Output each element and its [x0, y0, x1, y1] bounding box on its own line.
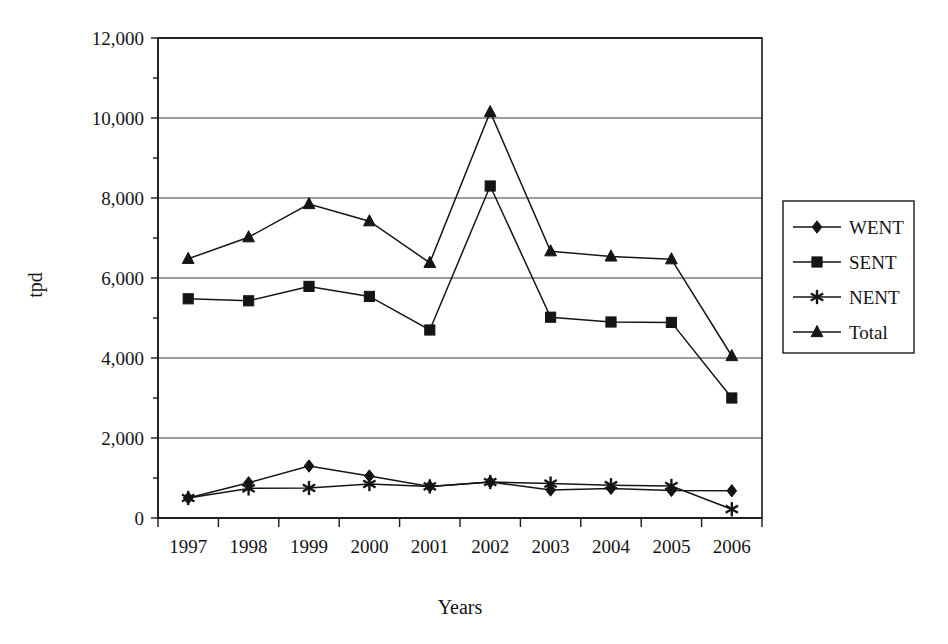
data-point-square — [812, 257, 822, 267]
x-tick-label: 2004 — [592, 536, 631, 557]
data-point-square — [425, 325, 435, 335]
series-line-total — [188, 112, 732, 356]
series-line-sent — [188, 186, 732, 398]
x-tick-label: 1999 — [290, 536, 328, 557]
x-tick-label: 2002 — [471, 536, 509, 557]
data-point-square — [606, 317, 616, 327]
x-tick-label: 1997 — [169, 536, 207, 557]
gridlines-group — [158, 38, 762, 518]
x-tick-label: 1998 — [230, 536, 268, 557]
y-tick-label: 10,000 — [92, 108, 144, 129]
series-nent — [182, 475, 738, 516]
data-series-group — [182, 105, 738, 516]
y-tick-label: 12,000 — [92, 28, 144, 49]
series-sent — [183, 181, 737, 403]
legend-item-label: SENT — [849, 252, 897, 273]
y-tick-label: 6,000 — [101, 268, 144, 289]
legend-item-label: WENT — [849, 217, 904, 238]
series-line-nent — [188, 482, 732, 509]
data-point-square — [666, 317, 676, 327]
data-point-triangle — [726, 349, 738, 360]
data-point-square — [244, 296, 254, 306]
legend-item-label: Total — [849, 322, 888, 343]
y-tick-label: 8,000 — [101, 188, 144, 209]
data-point-star — [726, 502, 738, 516]
x-tick-marks-group — [158, 518, 762, 527]
data-point-diamond — [304, 460, 314, 472]
data-point-square — [546, 312, 556, 322]
y-tick-labels-group: 02,0004,0006,0008,00010,00012,000 — [92, 28, 144, 529]
data-point-triangle — [484, 105, 496, 116]
data-point-square — [485, 181, 495, 191]
series-went — [183, 460, 736, 504]
x-tick-label: 2000 — [350, 536, 388, 557]
y-tick-label: 4,000 — [101, 348, 144, 369]
data-point-square — [364, 291, 374, 301]
y-axis-title: tpd — [24, 272, 47, 298]
x-tick-label: 2001 — [411, 536, 449, 557]
legend-item-label: NENT — [849, 287, 900, 308]
x-tick-label: 2003 — [532, 536, 570, 557]
x-axis-title: Years — [438, 596, 483, 618]
data-point-triangle — [243, 231, 255, 242]
y-tick-label: 0 — [135, 508, 145, 529]
data-point-square — [727, 393, 737, 403]
data-point-triangle — [545, 245, 557, 256]
data-point-square — [304, 281, 314, 291]
data-point-triangle — [424, 256, 436, 267]
chart-canvas: 02,0004,0006,0008,00010,00012,000 199719… — [0, 0, 948, 644]
x-tick-label: 2006 — [713, 536, 751, 557]
y-tick-marks-group — [151, 38, 158, 518]
x-tick-label: 2005 — [652, 536, 690, 557]
series-line-went — [188, 466, 732, 498]
data-point-square — [183, 294, 193, 304]
data-point-diamond — [727, 485, 737, 497]
x-tick-labels-group: 1997199819992000200120022003200420052006 — [169, 536, 751, 557]
line-chart: 02,0004,0006,0008,00010,00012,000 199719… — [0, 0, 948, 644]
y-tick-label: 2,000 — [101, 428, 144, 449]
legend: WENTSENTNENTTotal — [783, 201, 914, 353]
data-point-triangle — [303, 197, 315, 208]
